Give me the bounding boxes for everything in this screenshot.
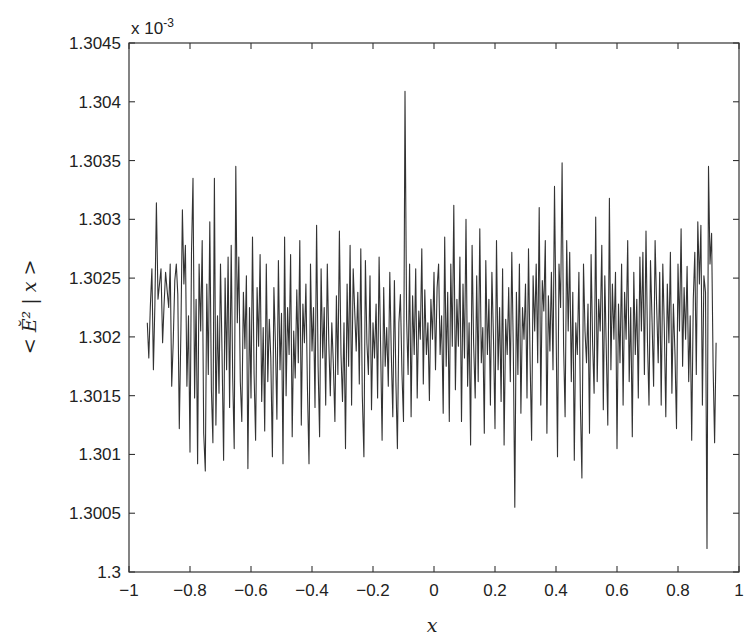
x-tick-label: −0.4 bbox=[295, 581, 329, 600]
y-tick-label: 1.3015 bbox=[69, 387, 121, 406]
y-tick-label: 1.301 bbox=[78, 445, 121, 464]
y-tick-label: 1.304 bbox=[78, 93, 121, 112]
y-tick-label: 1.3035 bbox=[69, 152, 121, 171]
y-axis-title: < Ĕ² | x > bbox=[18, 260, 41, 355]
x-tick-label: 1 bbox=[734, 581, 743, 600]
x-tick-label: 0.6 bbox=[605, 581, 629, 600]
y-tick-label: 1.3005 bbox=[69, 504, 121, 523]
y-tick-label: 1.302 bbox=[78, 328, 121, 347]
x-tick-label: 0.4 bbox=[544, 581, 568, 600]
line-chart: −1−0.8−0.6−0.4−0.200.20.40.60.81 1.31.30… bbox=[0, 0, 744, 640]
y-tick-label: 1.303 bbox=[78, 210, 121, 229]
x-tick-label: −1 bbox=[119, 581, 138, 600]
x-tick-label: −0.2 bbox=[356, 581, 390, 600]
x-tick-label: 0 bbox=[429, 581, 438, 600]
y-tick-label: 1.3 bbox=[97, 563, 121, 582]
y-tick-label: 1.3025 bbox=[69, 269, 121, 288]
x-axis-title: x bbox=[427, 614, 438, 636]
x-tick-label: 0.2 bbox=[483, 581, 507, 600]
y-tick-label: 1.3045 bbox=[69, 34, 121, 53]
x-tick-label: −0.8 bbox=[173, 581, 207, 600]
y-multiplier-label: x 10-3 bbox=[131, 16, 174, 38]
x-tick-label: −0.6 bbox=[234, 581, 268, 600]
x-tick-label: 0.8 bbox=[666, 581, 690, 600]
